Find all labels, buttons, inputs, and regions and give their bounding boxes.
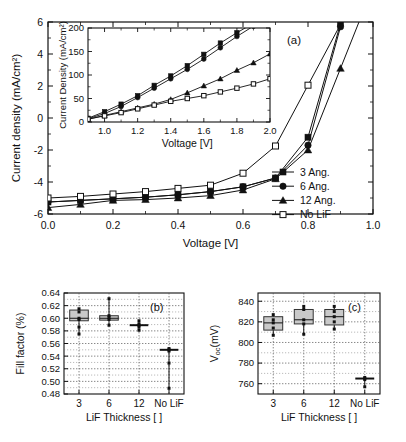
data-point-marker (208, 182, 214, 188)
x-tick-label: 0.2 (106, 219, 121, 231)
x-tick-label: 1.0 (366, 219, 381, 231)
data-point-marker (168, 76, 173, 81)
data-point-marker (305, 82, 311, 88)
y-tick-label: 0.54 (42, 351, 61, 362)
y-tick-label: 780 (238, 357, 254, 368)
data-point-marker (280, 212, 286, 218)
data-point-marker (78, 326, 81, 329)
x-tick-label: 12 (133, 398, 145, 409)
data-point-marker (218, 41, 222, 45)
data-point-marker (78, 310, 81, 313)
panel-c-xlabel: LiF Thickness [ ] (281, 411, 357, 423)
data-point-marker (138, 329, 141, 332)
panel-a-xlabel: Voltage [V] (183, 237, 239, 249)
data-point-marker (272, 334, 275, 337)
data-point-marker (168, 350, 171, 353)
data-point-marker (272, 327, 275, 330)
panel-a-ylabel: Current density (mA/cm²) (10, 54, 22, 183)
data-point-marker (78, 318, 81, 321)
y-tick-label: 0.62 (42, 300, 61, 311)
data-point-marker (202, 52, 206, 56)
figure-svg: 0.00.20.40.60.81.0-6-4-20246Voltage [V]C… (0, 0, 406, 442)
data-point-marker (363, 378, 366, 381)
data-point-marker (333, 305, 336, 308)
inset-y-tick-label: 100 (68, 69, 84, 80)
inset-x-tick-label: 1.8 (230, 125, 243, 136)
legend-label: 3 Ang. (300, 166, 330, 178)
y-tick-label: 0.58 (42, 325, 61, 336)
inset-y-tick-label: 50 (73, 93, 84, 104)
data-point-marker (152, 103, 156, 107)
data-point-marker (333, 315, 336, 318)
data-point-marker (168, 362, 171, 365)
y-tick-label: -2 (34, 144, 43, 156)
y-tick-label: 820 (238, 316, 254, 327)
panel-b: 0.480.500.520.540.560.580.600.620.643612… (14, 287, 184, 423)
legend-label: No LiF (300, 208, 331, 220)
y-tick-label: 800 (238, 337, 254, 348)
data-point-marker (78, 307, 81, 310)
x-tick-label: 3 (76, 398, 82, 409)
data-point-marker (78, 193, 84, 199)
y-tick-label: 760 (238, 378, 254, 389)
data-point-marker (45, 195, 51, 201)
data-point-marker (268, 11, 272, 15)
data-point-marker (110, 191, 116, 197)
data-point-marker (280, 169, 286, 175)
y-tick-label: 0.56 (42, 338, 61, 349)
x-tick-label: 0.4 (171, 219, 186, 231)
panel-b-label: (b) (150, 301, 163, 313)
y-tick-label: 0.52 (42, 363, 61, 374)
inset-x-tick-label: 2.0 (263, 125, 276, 136)
x-tick-label: 6 (106, 398, 112, 409)
panel-b-ylabel: Fill factor (%) (14, 313, 26, 375)
x-tick-label: 3 (270, 398, 276, 409)
data-point-marker (185, 96, 189, 100)
data-point-marker (138, 326, 141, 329)
data-point-marker (333, 320, 336, 323)
box-rect (294, 309, 313, 323)
data-point-marker (201, 57, 206, 62)
panel-c: 7607808008208403612No LiFLiF Thickness [… (208, 293, 380, 423)
inset-y-tick-label: 0 (79, 116, 84, 127)
data-point-marker (119, 110, 123, 114)
y-tick-label: 0.64 (42, 287, 61, 298)
data-point-marker (268, 12, 273, 17)
data-point-marker (280, 183, 286, 189)
data-point-marker (302, 308, 305, 311)
y-tick-label: -4 (34, 176, 43, 188)
y-tick-label: 0.50 (42, 376, 61, 387)
data-point-marker (235, 86, 239, 90)
data-point-marker (185, 67, 190, 72)
data-point-marker (302, 318, 305, 321)
data-point-marker (152, 86, 157, 91)
y-tick-label: 840 (238, 296, 254, 307)
inset-xlabel: Voltage [V] (162, 137, 213, 149)
data-point-marker (272, 313, 275, 316)
inset-x-tick-label: 1.0 (98, 125, 111, 136)
data-point-marker (218, 90, 222, 94)
data-point-marker (108, 297, 111, 300)
x-tick-label: No LiF (350, 398, 379, 409)
data-point-marker (302, 322, 305, 325)
data-point-marker (240, 170, 246, 176)
data-point-marker (119, 104, 124, 109)
inset-ylabel: Current Density (mA/cm²) (57, 21, 68, 129)
figure-root: 0.00.20.40.60.81.0-6-4-20246Voltage [V]C… (0, 0, 406, 442)
data-point-marker (175, 185, 181, 191)
data-point-marker (235, 34, 240, 39)
inset-x-tick-label: 1.6 (197, 125, 210, 136)
data-point-marker (273, 143, 279, 149)
data-point-marker (135, 95, 140, 100)
inset-plot-frame (88, 28, 270, 122)
inset-x-tick-label: 1.4 (164, 125, 177, 136)
legend-label: 12 Ang. (300, 194, 336, 206)
panel-c-ylabel: Voc(mV) (208, 325, 222, 362)
panel-a-label: (a) (287, 34, 301, 46)
x-tick-label: 0.6 (236, 219, 251, 231)
data-point-marker (78, 333, 81, 336)
x-tick-label: 0.0 (41, 219, 56, 231)
y-tick-label: 4 (37, 48, 43, 60)
data-point-marker (333, 310, 336, 313)
x-tick-label: 6 (301, 398, 307, 409)
